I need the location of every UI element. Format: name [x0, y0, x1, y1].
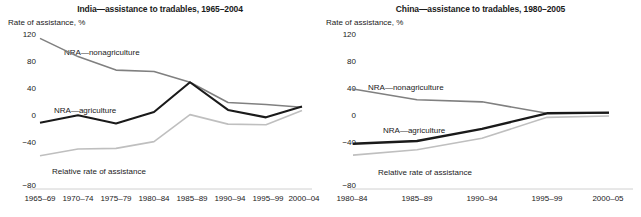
- chart-panel-china: China—assistance to tradables, 1980–2005…: [320, 0, 641, 217]
- figure-root: India—assistance to tradables, 1965–2004…: [0, 0, 641, 217]
- series-line-nra-nonagriculture: [353, 89, 609, 113]
- plot-svg-china: [320, 0, 641, 217]
- plot-svg-india: [0, 0, 320, 217]
- plot-area-china: [320, 0, 641, 217]
- series-line-relative-rate: [353, 116, 609, 155]
- chart-panel-india: India—assistance to tradables, 1965–2004…: [0, 0, 320, 217]
- series-line-nra-agriculture: [40, 82, 302, 123]
- plot-area-india: [0, 0, 320, 217]
